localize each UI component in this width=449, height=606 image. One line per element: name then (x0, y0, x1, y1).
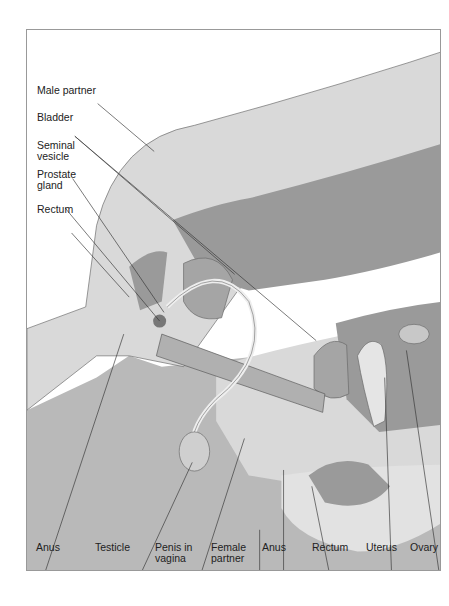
label-rectum-male: Rectum (37, 204, 73, 215)
female-bladder-shape (314, 341, 349, 398)
label-bladder-male: Bladder (37, 112, 73, 123)
label-anus-female: Anus (262, 542, 286, 553)
label-anus-male: Anus (36, 542, 60, 553)
anatomy-illustration (27, 30, 441, 571)
label-uterus: Uterus (366, 542, 397, 553)
label-male-partner: Male partner (37, 85, 96, 96)
label-testicle: Testicle (95, 542, 130, 553)
testicle-shape (179, 432, 209, 471)
label-seminal-vesicle: Seminal vesicle (37, 140, 87, 162)
ovary-shape (399, 324, 429, 344)
label-ovary: Ovary (410, 542, 438, 553)
label-prostate-gland: Prostate gland (37, 169, 87, 191)
label-penis-in-vagina: Penis in vagina (155, 542, 195, 564)
label-rectum-female: Rectum (312, 542, 348, 553)
label-female-partner: Female partner (211, 542, 251, 564)
diagram-frame: Male partner Bladder Seminal vesicle Pro… (26, 29, 441, 571)
